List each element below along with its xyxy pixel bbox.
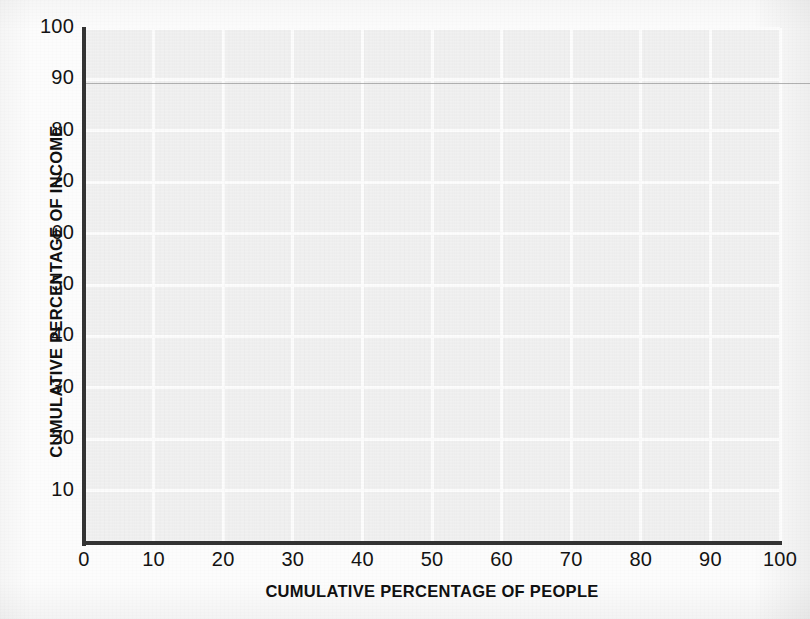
x-tick-label: 10 [124, 548, 184, 571]
x-tick-label: 0 [54, 548, 114, 571]
gridline-horizontal [84, 78, 780, 81]
gridline-horizontal [84, 386, 780, 389]
x-tick-label: 60 [472, 548, 532, 571]
gridline-horizontal [84, 489, 780, 492]
x-axis-title: CUMULATIVE PERCENTAGE OF PEOPLE [84, 582, 780, 601]
gridline-horizontal [84, 335, 780, 338]
gridline-horizontal [84, 232, 780, 235]
x-tick-label: 20 [193, 548, 253, 571]
gridline-horizontal [84, 438, 780, 441]
x-axis-line [82, 541, 782, 545]
x-tick-label: 80 [611, 548, 671, 571]
gridline-horizontal [84, 129, 780, 132]
x-tick-label: 70 [541, 548, 601, 571]
x-tick-label: 90 [680, 548, 740, 571]
plot-area [84, 28, 780, 542]
x-tick-label: 30 [263, 548, 323, 571]
x-tick-label: 100 [750, 548, 810, 571]
y-axis-title: CUMULATIVE PERCENTAGE OF INCOME [47, 42, 66, 542]
lorenz-curve-chart: 0102030405060708090100 10203040506070809… [0, 0, 810, 619]
gridline-horizontal [84, 27, 780, 30]
gridline-horizontal [84, 284, 780, 287]
y-axis-line [82, 27, 86, 546]
y-tick-label: 100 [12, 15, 74, 38]
gridline-horizontal [84, 181, 780, 184]
x-tick-label: 50 [402, 548, 462, 571]
x-tick-label: 40 [332, 548, 392, 571]
